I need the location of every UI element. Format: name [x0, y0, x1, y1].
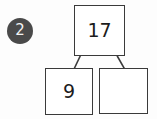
whole-number-box[interactable]: 17 [74, 5, 125, 56]
connector-line-left [75, 57, 81, 69]
whole-number-value: 17 [88, 21, 112, 40]
part-number-value-left: 9 [63, 82, 75, 101]
connector-line-right [118, 57, 125, 69]
part-number-box-right[interactable] [99, 68, 148, 114]
part-number-box-left[interactable]: 9 [45, 68, 93, 115]
number-bond-problem: 2 17 9 [0, 0, 157, 119]
problem-number-badge: 2 [7, 18, 33, 44]
problem-number-label: 2 [15, 23, 25, 38]
